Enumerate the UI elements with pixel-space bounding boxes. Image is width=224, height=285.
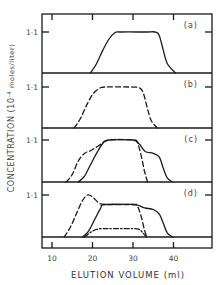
plot-border: [42, 14, 212, 248]
y-tick-label: 1·1: [26, 28, 38, 37]
series-dashed: [66, 139, 147, 182]
x-axis: 10203040: [47, 242, 178, 263]
y-axis-label-units: moles/liter): [8, 44, 16, 91]
panels: 1·1(a)1·1(b)1·1(c)1·1(d): [26, 21, 212, 237]
panel-label: (d): [184, 189, 198, 198]
x-axis-label: ELUTION VOLUME (ml): [71, 270, 185, 280]
y-axis-label-exponent: -4: [6, 91, 12, 98]
panel-b: 1·1(b): [26, 80, 212, 128]
panel-a: 1·1(a): [26, 21, 212, 73]
y-tick-label: 1·1: [26, 136, 38, 145]
x-tick-label: 20: [88, 254, 98, 263]
y-tick-label: 1·1: [26, 191, 38, 200]
panel-d: 1·1(d): [26, 189, 212, 237]
y-axis-label-main: CONCENTRATION (10: [7, 97, 16, 192]
series-solid: [78, 140, 172, 182]
y-axis-label: CONCENTRATION (10-4 moles/liter): [6, 44, 16, 193]
y-tick-label: 1·1: [26, 83, 38, 92]
chart: 1·1(a)1·1(b)1·1(c)1·1(d) 10203040 ELUTIO…: [0, 0, 224, 285]
series-dashed: [74, 87, 157, 128]
chart-frame: [42, 14, 212, 248]
panel-label: (a): [184, 21, 198, 30]
panel-label: (b): [184, 80, 198, 89]
series-dashed: [64, 195, 147, 237]
series-dash-dot: [84, 229, 146, 237]
x-tick-label: 30: [128, 254, 138, 263]
series-solid: [82, 204, 172, 237]
series-solid: [91, 32, 176, 73]
panel-label: (c): [184, 135, 198, 144]
x-tick-label: 10: [47, 254, 57, 263]
panel-c: 1·1(c): [26, 135, 212, 182]
x-tick-label: 40: [169, 254, 179, 263]
